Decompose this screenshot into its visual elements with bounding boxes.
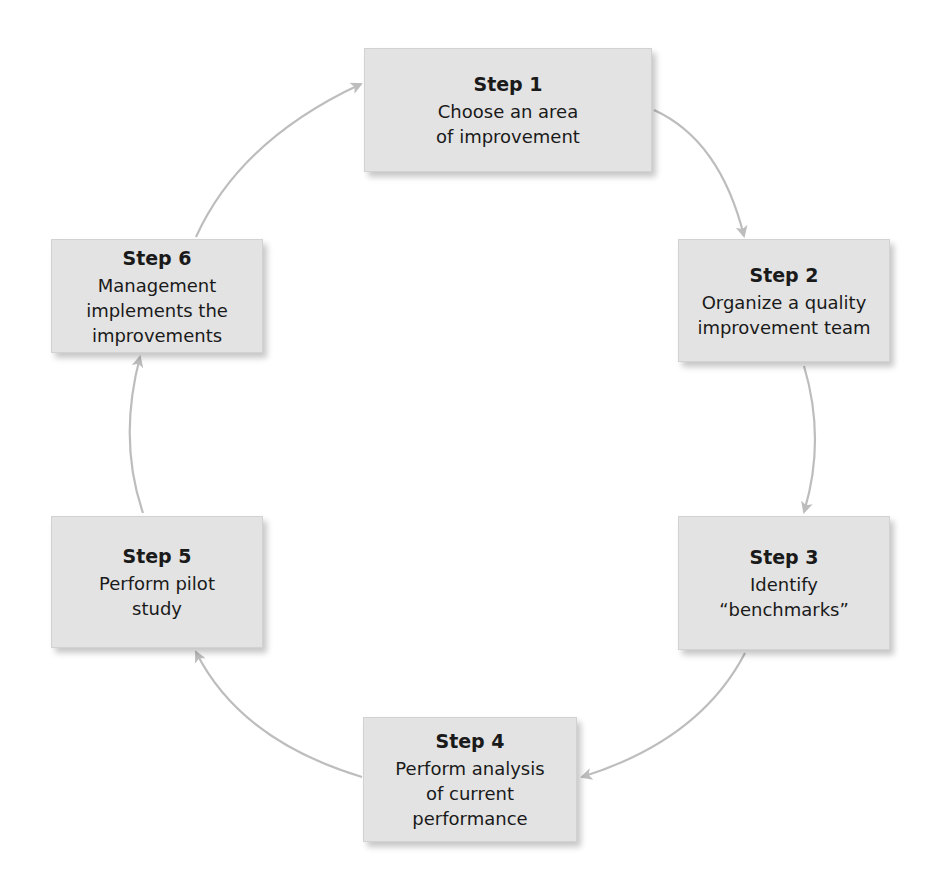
step-1-box: Step 1 Choose an area of improvement xyxy=(364,48,652,172)
step-5-description: Perform pilot study xyxy=(99,571,215,621)
step-1-description: Choose an area of improvement xyxy=(436,99,580,149)
step-5-title: Step 5 xyxy=(122,543,191,569)
arrow-step3-to-step4 xyxy=(582,653,745,777)
step-2-title: Step 2 xyxy=(749,262,818,288)
step-6-box: Step 6 Management implements the improve… xyxy=(51,239,263,353)
step-3-title: Step 3 xyxy=(749,544,818,570)
step-4-title: Step 4 xyxy=(435,728,504,754)
arrow-step2-to-step3 xyxy=(804,366,815,512)
step-3-description: Identify “benchmarks” xyxy=(719,572,849,622)
step-1-title: Step 1 xyxy=(473,71,542,97)
arrow-step6-to-step1 xyxy=(196,84,361,237)
step-5-box: Step 5 Perform pilot study xyxy=(51,516,263,648)
arrow-step1-to-step2 xyxy=(654,110,744,236)
step-6-description: Management implements the improvements xyxy=(86,273,228,348)
step-4-description: Perform analysis of current performance xyxy=(395,756,544,831)
step-6-title: Step 6 xyxy=(122,245,191,271)
arrow-step5-to-step6 xyxy=(130,357,143,513)
step-3-box: Step 3 Identify “benchmarks” xyxy=(678,516,890,650)
step-2-description: Organize a quality improvement team xyxy=(697,290,870,340)
arrow-step4-to-step5 xyxy=(196,652,362,777)
step-2-box: Step 2 Organize a quality improvement te… xyxy=(678,239,890,362)
step-4-box: Step 4 Perform analysis of current perfo… xyxy=(363,717,577,842)
